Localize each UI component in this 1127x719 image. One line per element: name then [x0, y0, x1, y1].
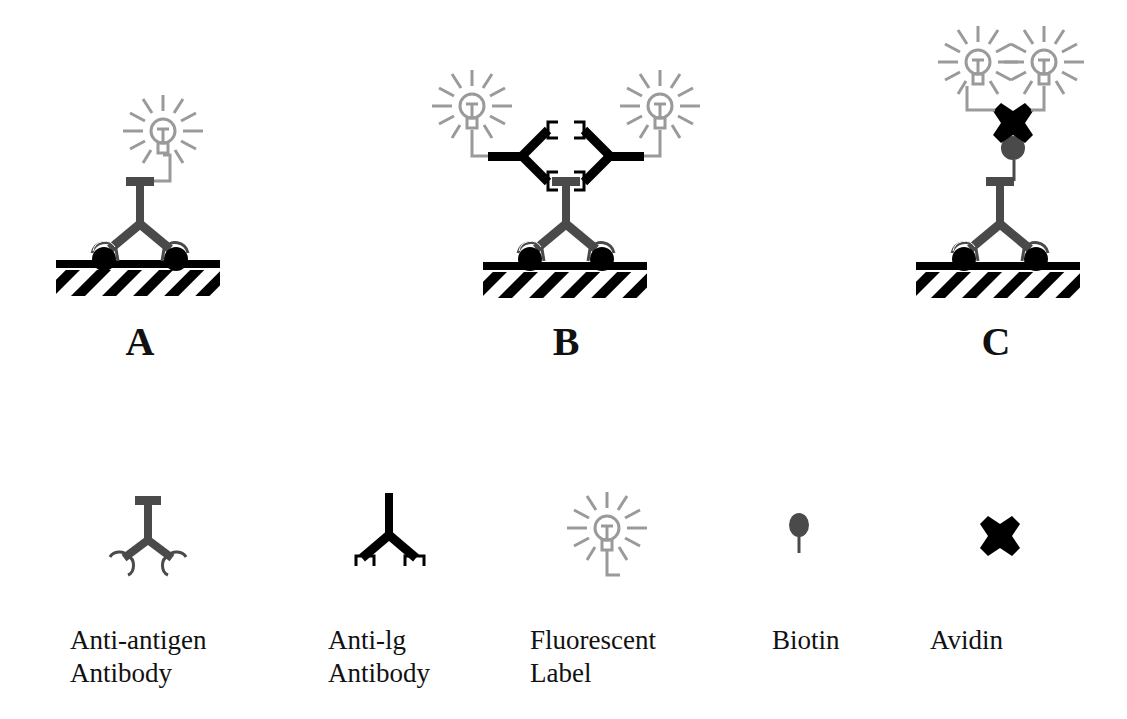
anti-ig-antibody-icon [356, 493, 424, 566]
panel-label-a: A [126, 322, 155, 362]
legend-line1: Avidin [930, 624, 1003, 657]
panel-a-diagram [56, 95, 220, 296]
biotin-icon [789, 513, 809, 553]
legend-line2: Label [530, 657, 656, 690]
legend-biotin: Biotin [772, 624, 840, 657]
legend-line2: Antibody [328, 657, 430, 690]
panel-c-diagram [916, 26, 1084, 298]
legend-line1: Biotin [772, 624, 840, 657]
legend-line1: Anti-antigen [70, 624, 206, 657]
legend-anti-ig-antibody: Anti-lg Antibody [328, 624, 430, 690]
fluorescent-label-icon [567, 492, 647, 575]
legend-line1: Anti-lg [328, 624, 430, 657]
legend-anti-antigen-antibody: Anti-antigen Antibody [70, 624, 206, 690]
legend-fluorescent-label: Fluorescent Label [530, 624, 656, 690]
panel-label-b: B [553, 322, 580, 362]
legend-line2: Antibody [70, 657, 206, 690]
anti-antigen-antibody-icon [110, 496, 186, 575]
panel-label-c: C [982, 322, 1011, 362]
legend-avidin: Avidin [930, 624, 1003, 657]
panel-b-diagram [432, 70, 700, 298]
legend-line1: Fluorescent [530, 624, 656, 657]
avidin-icon [980, 516, 1020, 556]
